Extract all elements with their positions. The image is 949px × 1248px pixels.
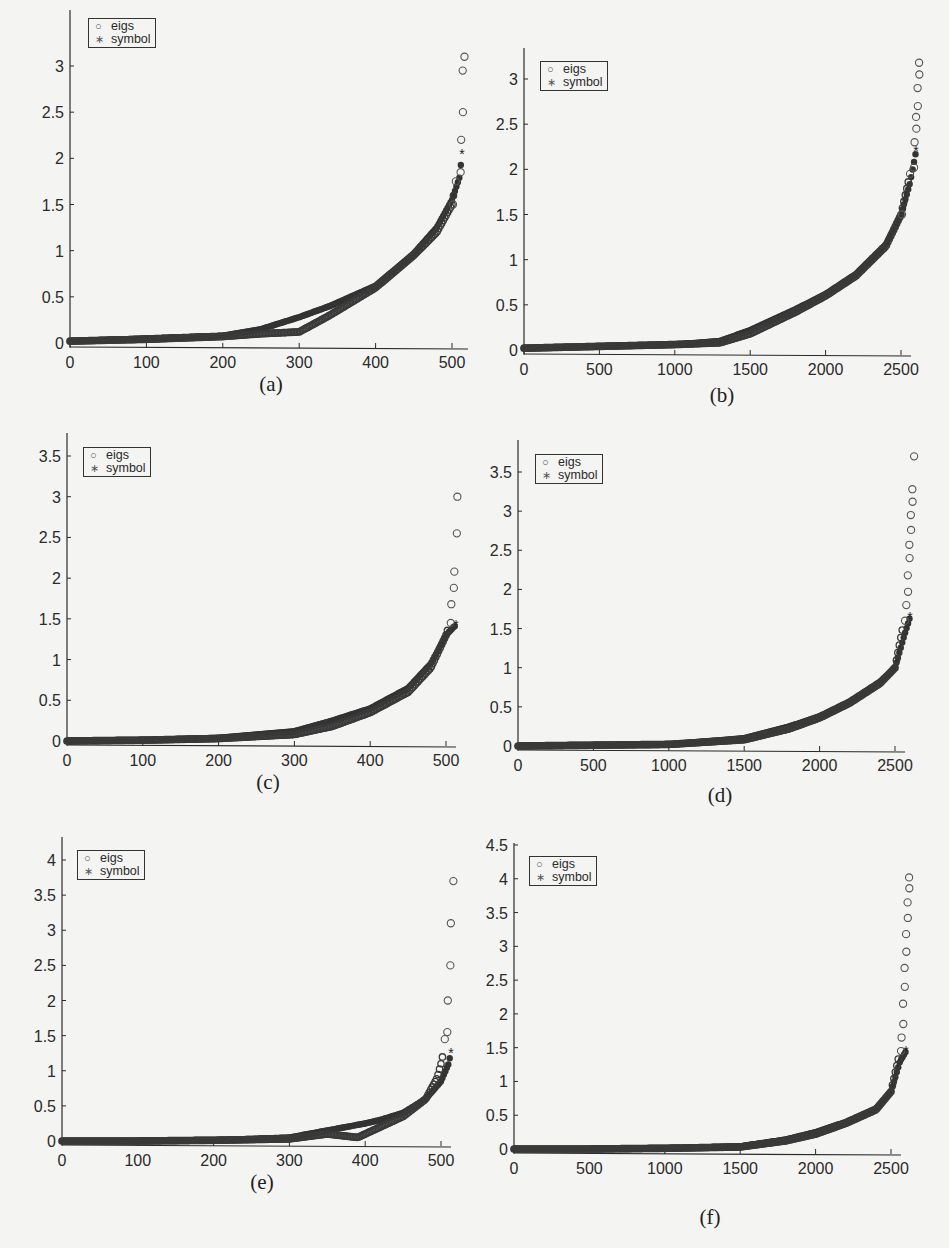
x-tick-label: 1500: [722, 1160, 758, 1177]
y-tick-label: 0.5: [486, 1107, 508, 1124]
eigs-point: [900, 1020, 907, 1027]
x-tick-label: 2500: [873, 1160, 909, 1177]
symbol-point: *: [903, 1043, 909, 1059]
x-tick-label: 0: [510, 1160, 519, 1177]
eigs-point: [901, 983, 908, 990]
y-tick-label: 2: [499, 1006, 508, 1023]
asterisk-icon: ∗: [536, 871, 552, 884]
open-circle-icon: ○: [536, 858, 552, 871]
y-tick-label: 1: [499, 1073, 508, 1090]
eigs-point: [901, 964, 908, 971]
y-tick-label: 0: [499, 1141, 508, 1158]
legend-symbol-label: symbol: [552, 871, 592, 884]
y-tick-label: 3: [499, 938, 508, 955]
y-tick-label: 3.5: [486, 905, 508, 922]
panel-caption: (f): [700, 1205, 721, 1230]
x-tick-label: 500: [576, 1160, 603, 1177]
eigs-point: [904, 899, 911, 906]
x-tick-label: 2000: [798, 1160, 834, 1177]
y-tick-label: 4.5: [486, 837, 508, 854]
eigs-point: [899, 1000, 906, 1007]
y-tick-label: 1.5: [486, 1040, 508, 1057]
y-tick-label: 2.5: [486, 972, 508, 989]
legend: ○eigs∗symbol: [529, 856, 597, 886]
x-axis: [514, 1153, 901, 1155]
eigs-point: [904, 914, 911, 921]
x-tick-label: 1000: [647, 1160, 683, 1177]
eigs-point: [906, 885, 913, 892]
eigs-point: [902, 931, 909, 938]
eigs-point: [898, 1034, 905, 1041]
y-tick-label: 4: [499, 871, 508, 888]
eigs-point: [903, 948, 910, 955]
eigs-point: [905, 874, 912, 881]
chart-plot-f: 00.511.522.533.544.505001000150020002500…: [0, 0, 949, 1248]
